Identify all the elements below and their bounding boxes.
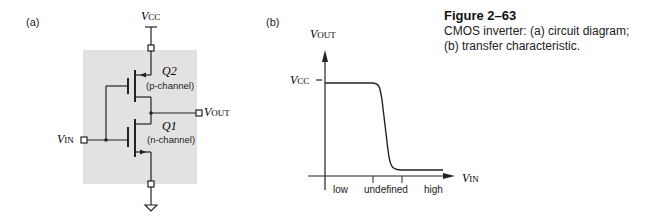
vin-label: VIN [57,132,74,147]
y-axis-label-sub: OUT [317,30,336,40]
vout-label: VOUT [204,105,230,120]
x-region-undefined: undefined [364,184,408,195]
vout-terminal[interactable] [196,110,202,116]
q1-name: Q1 [162,119,177,134]
figure-title: Figure 2–63 [444,8,516,23]
q2-type: (p-channel) [146,80,194,91]
x-region-low: low [333,184,348,195]
vcc-terminal [148,45,154,51]
figure-caption: CMOS inverter: (a) circuit diagram; (b) … [444,24,644,54]
vcc-label: VCC [141,9,160,24]
y-axis-arrow-icon [322,50,328,62]
x-region-high: high [424,184,443,195]
vin-terminal[interactable] [81,137,87,143]
vcc-tick-sub: CC [297,76,309,86]
transfer-curve [325,83,443,170]
panel-b-label: (b) [266,16,279,28]
x-axis-label: VIN [462,171,479,186]
ground-terminal [148,181,154,187]
vin-label-sub: IN [64,135,74,145]
x-axis-label-sub: IN [469,174,479,184]
q2-name: Q2 [162,64,177,79]
vout-label-sub: OUT [211,108,230,118]
ground-icon [145,205,157,211]
q1-type: (n-channel) [147,134,195,145]
y-axis-label: VOUT [310,27,336,42]
vcc-tick-label: VCC [290,73,309,88]
vcc-label-sub: CC [148,12,160,22]
circuit-background [83,50,197,184]
x-axis-arrow-icon [443,173,455,179]
